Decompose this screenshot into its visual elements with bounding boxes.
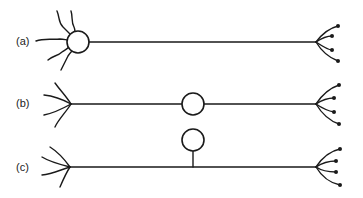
panel-b-axon-terminals [316,83,341,126]
panel-b-dendrites [44,83,71,127]
panel-b: (b) [16,83,341,127]
panel-c-label: (c) [16,161,29,173]
panel-c-soma [182,129,204,151]
panel-b-label: (b) [16,97,29,109]
panel-b-soma [182,93,204,115]
panel-c-axon-terminals [316,147,342,187]
panel-a-label: (a) [16,35,29,47]
panel-c-dendrites [42,147,70,187]
panel-a-soma [67,31,89,53]
neuron-types-diagram: (a) (b) [0,0,363,198]
panel-a: (a) [16,11,340,70]
panel-a-axon-terminals [316,24,340,63]
panel-c: (c) [16,129,342,187]
